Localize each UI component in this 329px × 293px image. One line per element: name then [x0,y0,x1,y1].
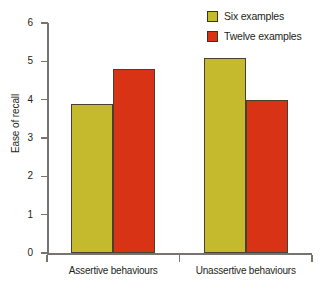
y-tick-4 [41,99,48,101]
bar-0-1 [113,69,155,253]
y-tick-label-3: 3 [0,133,33,143]
bar-0-0 [71,104,113,254]
chart-legend: Six examples Twelve examples [207,8,329,48]
bar-1-0 [204,58,246,254]
legend-item-twelve-examples: Twelve examples [207,28,329,45]
y-tick-1 [41,214,48,216]
y-tick-label-6: 6 [0,18,33,28]
bar-1-1 [246,100,288,253]
y-tick-label-1: 1 [0,210,33,220]
y-tick-6 [41,22,48,24]
x-tick-1 [179,255,181,262]
x-tick-2 [311,255,313,262]
y-tick-5 [41,61,48,63]
x-tick-0 [46,255,48,262]
y-tick-label-0: 0 [0,248,33,258]
legend-item-six-examples: Six examples [207,8,329,25]
y-tick-3 [41,137,48,139]
y-axis-title: Ease of recall [10,64,21,184]
y-tick-label-4: 4 [0,95,33,105]
y-tick-2 [41,176,48,178]
x-category-label-0: Assertive behaviours [47,265,180,276]
legend-label-twelve-examples: Twelve examples [224,31,302,42]
y-tick-label-2: 2 [0,171,33,181]
legend-label-six-examples: Six examples [224,11,284,22]
legend-swatch-six-examples [207,11,218,22]
y-tick-label-5: 5 [0,56,33,66]
legend-swatch-twelve-examples [207,31,218,42]
bar-chart: Six examples Twelve examples Ease of rec… [0,0,329,293]
x-category-label-1: Unassertive behaviours [180,265,313,276]
